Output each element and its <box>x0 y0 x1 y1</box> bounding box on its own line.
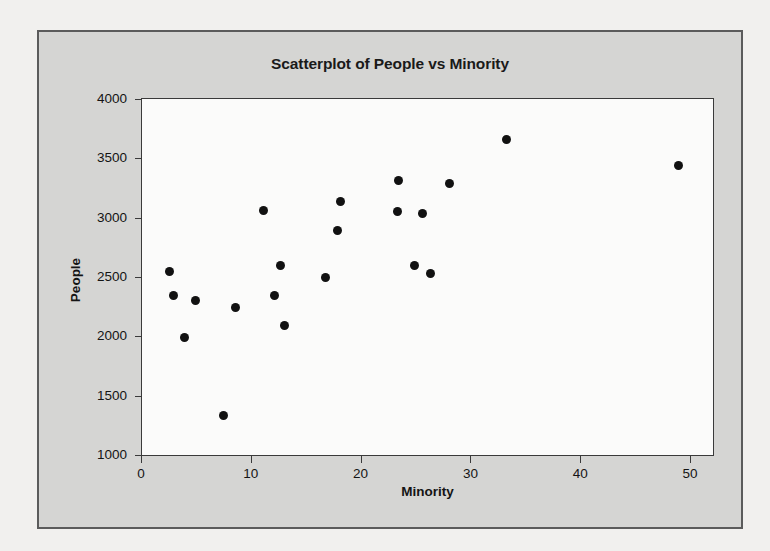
y-axis-tick-label: 3000 <box>97 209 127 224</box>
x-axis-tick-label: 30 <box>463 466 478 481</box>
y-axis-tick-mark <box>135 158 142 159</box>
y-axis-tick-mark <box>135 277 142 278</box>
scatter-point <box>418 209 427 218</box>
scatter-point <box>393 207 402 216</box>
scatter-point <box>259 206 268 215</box>
plot-area <box>141 98 714 456</box>
scatter-point <box>219 411 228 420</box>
y-axis-tick-label: 2000 <box>97 328 127 343</box>
chart-title: Scatterplot of People vs Minority <box>39 55 741 73</box>
y-axis-tick-label: 1000 <box>97 447 127 462</box>
scatter-point <box>394 176 403 185</box>
y-axis-tick-mark <box>135 99 142 100</box>
y-axis-tick-mark <box>135 336 142 337</box>
scatter-point <box>674 161 683 170</box>
x-axis-tick-mark <box>580 456 581 463</box>
x-axis-title: Minority <box>141 484 714 499</box>
scatter-point <box>426 269 435 278</box>
x-axis-tick-label: 0 <box>137 466 145 481</box>
x-axis-tick-label: 50 <box>683 466 698 481</box>
scatter-point <box>165 267 174 276</box>
x-axis-tick-mark <box>361 456 362 463</box>
y-axis-tick-label: 2500 <box>97 269 127 284</box>
x-axis-tick-label: 40 <box>573 466 588 481</box>
scatter-point <box>445 179 454 188</box>
y-axis-tick-mark <box>135 218 142 219</box>
scatter-point <box>231 303 240 312</box>
x-axis-tick-mark <box>690 456 691 463</box>
x-axis-tick-label: 20 <box>353 466 368 481</box>
y-axis-tick-mark <box>135 396 142 397</box>
scatter-point <box>502 135 511 144</box>
scatter-point <box>169 291 178 300</box>
scatter-point <box>410 261 419 270</box>
x-axis-tick-mark <box>141 456 142 463</box>
x-axis-tick-mark <box>251 456 252 463</box>
x-axis-tick-mark <box>470 456 471 463</box>
scatter-point <box>333 226 342 235</box>
y-axis-tick-labels: 1000150020002500300035004000 <box>69 32 127 527</box>
y-axis-tick-label: 3500 <box>97 150 127 165</box>
scatter-point <box>280 321 289 330</box>
scatter-point <box>180 333 189 342</box>
chart-card: Scatterplot of People vs Minority People… <box>37 30 743 529</box>
scatter-point <box>336 197 345 206</box>
x-axis-tick-label: 10 <box>243 466 258 481</box>
scatter-point <box>191 296 200 305</box>
y-axis-tick-label: 4000 <box>97 91 127 106</box>
y-axis-tick-label: 1500 <box>97 387 127 402</box>
scatter-point <box>321 273 330 282</box>
scatter-point <box>270 291 279 300</box>
scatter-point <box>276 261 285 270</box>
